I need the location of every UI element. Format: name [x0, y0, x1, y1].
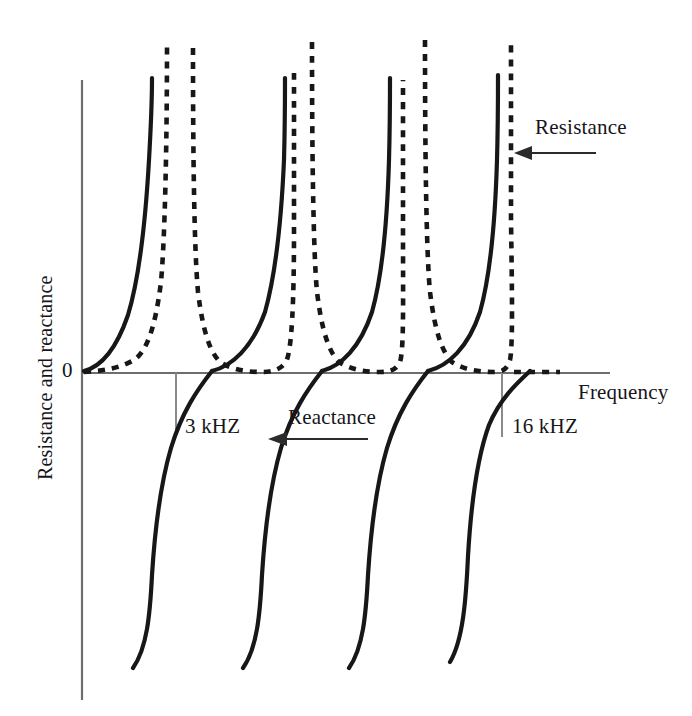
impedance-chart — [0, 0, 692, 716]
resistance-annotation-arrow — [514, 146, 596, 160]
reactance-upper-branch-1 — [84, 78, 152, 371]
resistance-annotation-label: Resistance — [535, 115, 627, 140]
y-axis-label: Resistance and reactance — [34, 180, 57, 480]
origin-zero-label: 0 — [62, 358, 73, 383]
x-tick-label-16khz: 16 kHZ — [512, 414, 578, 439]
reactance-upper-branch-3 — [322, 78, 390, 371]
reactance-annotation-label: Reactance — [288, 405, 376, 430]
reactance-upper-branch-4 — [428, 75, 498, 371]
reactance-annotation-arrow — [268, 432, 368, 446]
x-tick-label-3khz: 3 kHZ — [185, 414, 240, 439]
x-axis-label: Frequency — [578, 380, 668, 405]
reactance-upper-branch-2 — [212, 78, 285, 371]
